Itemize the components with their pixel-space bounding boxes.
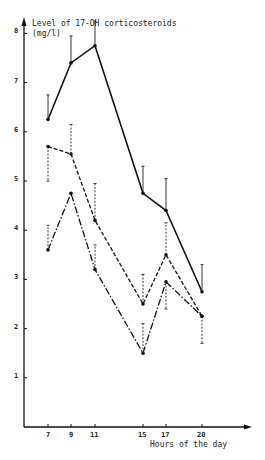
x-tick-label: 17 <box>161 431 169 439</box>
y-tick-label: 1 <box>14 372 18 380</box>
y-tick-label: 2 <box>14 323 18 331</box>
y-tick-label: 5 <box>14 175 18 183</box>
data-point <box>93 219 97 223</box>
x-tick-label: 7 <box>46 431 50 439</box>
x-axis-arrow-icon <box>244 425 252 430</box>
axes <box>22 17 253 430</box>
y-tick-label: 8 <box>14 27 18 35</box>
y-tick-label: 3 <box>14 273 18 281</box>
x-tick-label: 11 <box>90 431 98 439</box>
series-line-solid <box>48 46 202 292</box>
series-lines <box>46 21 204 355</box>
data-point <box>141 351 145 355</box>
data-point <box>200 290 204 294</box>
data-point <box>69 192 73 196</box>
data-point <box>164 280 168 284</box>
x-tick-label: 9 <box>69 431 73 439</box>
y-tick-label: 7 <box>14 77 18 85</box>
y-axis-label: Level of 17-OH corticosteroids <box>32 19 177 28</box>
data-point <box>141 192 145 196</box>
data-point <box>46 248 50 252</box>
series-line-dash-dot <box>48 193 202 353</box>
data-point <box>164 209 168 213</box>
data-point <box>141 302 145 306</box>
data-point <box>93 44 97 48</box>
y-axis-arrow-icon <box>22 17 27 26</box>
data-point <box>164 253 168 257</box>
y-tick-label: 4 <box>14 224 18 232</box>
data-point <box>69 61 73 65</box>
x-tick-label: 15 <box>138 431 146 439</box>
line-chart <box>0 0 265 460</box>
data-point <box>93 268 97 272</box>
data-point <box>46 145 50 149</box>
data-point <box>69 152 73 156</box>
y-axis-unit: (mg/l) <box>32 29 61 38</box>
x-axis-label: Hours of the day <box>150 440 227 449</box>
data-point <box>46 118 50 122</box>
series-line-dashed <box>48 147 202 317</box>
y-tick-label: 6 <box>14 126 18 134</box>
x-tick-label: 20 <box>197 431 205 439</box>
data-point <box>200 315 204 319</box>
